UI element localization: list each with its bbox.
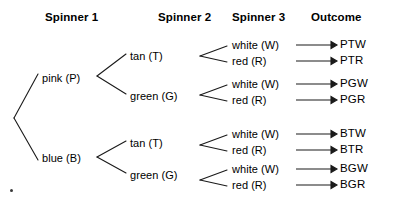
arrow-ptw — [296, 42, 337, 49]
tree-diagram: Spinner 1 Spinner 2 Spinner 3 Outcome pi… — [0, 0, 401, 208]
node-spinner3-white-bg: white (W) — [232, 163, 279, 175]
node-spinner3-red-bg: red (R) — [232, 179, 267, 191]
arrow-pgr — [296, 97, 337, 104]
artifact-dot — [10, 189, 13, 192]
arrow-ptr — [296, 58, 337, 65]
arrow-btr — [296, 147, 337, 154]
node-spinner2-tan-pink: tan (T) — [130, 50, 163, 62]
outcome-bgw: BGW — [340, 162, 368, 174]
outcome-btw: BTW — [340, 127, 366, 139]
branch-pg-to-red — [200, 95, 227, 101]
node-spinner3-white-pt: white (W) — [232, 39, 279, 51]
branch-blue-to-tan — [97, 141, 126, 157]
outcome-ptr: PTR — [340, 54, 364, 66]
branch-bg-to-white — [200, 170, 227, 180]
outcome-pgr: PGR — [340, 93, 366, 105]
node-spinner2-tan-blue: tan (T) — [130, 137, 163, 149]
header-spinner-2: Spinner 2 — [158, 11, 211, 23]
arrow-btw — [296, 131, 337, 138]
branch-pink-to-tan — [97, 54, 126, 76]
branch-root-to-pink — [14, 74, 38, 118]
outcome-btr: BTR — [340, 143, 364, 155]
node-spinner3-red-pg: red (R) — [232, 94, 267, 106]
branch-root-to-blue — [14, 118, 38, 160]
branch-bg-to-red — [200, 180, 227, 186]
arrow-pgw — [296, 81, 337, 88]
node-spinner2-green-blue: green (G) — [130, 169, 178, 181]
node-spinner3-red-pt: red (R) — [232, 55, 267, 67]
branch-pink-to-green — [97, 76, 126, 94]
node-spinner2-green-pink: green (G) — [130, 90, 178, 102]
header-outcome: Outcome — [311, 11, 362, 23]
branch-pg-to-white — [200, 85, 227, 95]
arrow-bgr — [296, 182, 337, 189]
node-spinner3-white-bt: white (W) — [232, 128, 279, 140]
branch-pt-to-white — [200, 46, 227, 56]
branch-pt-to-red — [200, 56, 227, 62]
outcome-ptw: PTW — [340, 38, 366, 50]
outcome-pgw: PGW — [340, 77, 368, 89]
header-spinner-3: Spinner 3 — [232, 11, 285, 23]
branch-bt-to-white — [200, 135, 227, 145]
header-spinner-1: Spinner 1 — [45, 11, 98, 23]
branch-bt-to-red — [200, 145, 227, 151]
outcome-bgr: BGR — [340, 178, 366, 190]
branch-blue-to-green — [97, 157, 126, 173]
arrow-bgw — [296, 166, 337, 173]
node-spinner1-blue: blue (B) — [42, 152, 81, 164]
node-spinner3-white-pg: white (W) — [232, 78, 279, 90]
node-spinner1-pink: pink (P) — [42, 72, 80, 84]
node-spinner3-red-bt: red (R) — [232, 144, 267, 156]
